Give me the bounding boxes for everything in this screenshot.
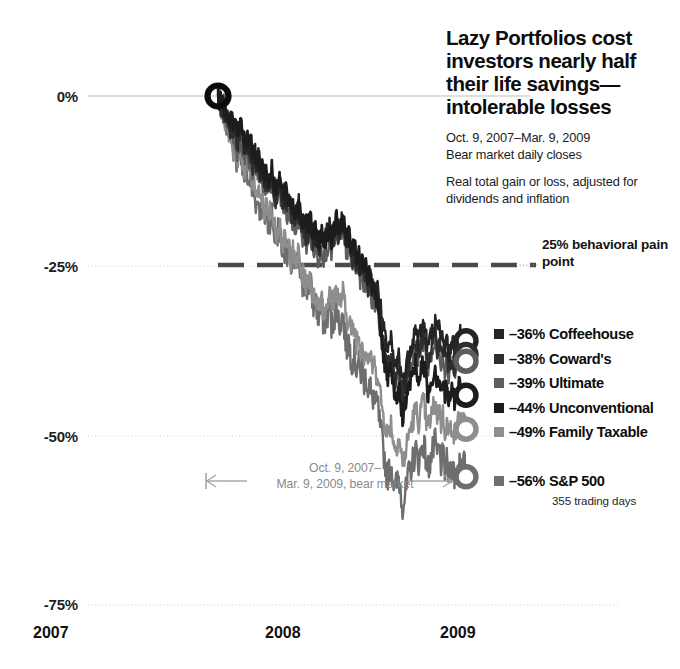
legend-value: –36% <box>509 326 545 342</box>
series-layer <box>218 87 466 519</box>
legend-item-ultimate[interactable]: –39%Ultimate <box>494 371 654 396</box>
x-axis-tick-2008: 2008 <box>265 624 301 642</box>
start-marker <box>208 86 229 107</box>
legend-value: –56% <box>509 473 545 489</box>
legend-swatch-icon <box>494 354 504 364</box>
legend-item-s-p-500[interactable]: –56%S&P 500 <box>494 469 654 494</box>
legend-item-coffeehouse[interactable]: –36%Coffeehouse <box>494 322 654 347</box>
trading-days-footnote: 355 trading days <box>552 494 636 507</box>
legend-item-unconventional[interactable]: –44%Unconventional <box>494 396 654 421</box>
subtitle-method: Real total gain or loss, adjusted for di… <box>446 174 670 207</box>
legend-swatch-icon <box>494 329 504 339</box>
x-axis-tick-2009: 2009 <box>440 624 476 642</box>
legend-swatch-icon <box>494 378 504 388</box>
legend-swatch-icon <box>494 476 504 486</box>
legend-swatch-icon <box>494 403 504 413</box>
chart-container: 0% -25% -50% -75% 2007 2008 2009 Lazy Po… <box>0 0 680 669</box>
y-axis-tick-75: -75% <box>16 596 78 613</box>
y-axis-tick-25: -25% <box>16 258 78 275</box>
legend-label: Coffeehouse <box>549 326 634 342</box>
y-axis-tick-0: 0% <box>16 88 78 105</box>
title-block: Lazy Portfolios cost investors nearly ha… <box>446 26 670 207</box>
y-axis-tick-50: -50% <box>16 428 78 445</box>
legend-value: –39% <box>509 375 545 391</box>
subtitle-period: Oct. 9, 2007–Mar. 9, 2009Bear market dai… <box>446 130 670 163</box>
endpoint-marker-family-taxable <box>456 419 476 439</box>
legend-value: –44% <box>509 400 545 416</box>
legend-swatch-icon <box>494 427 504 437</box>
endpoint-marker-s-p-500 <box>456 467 476 487</box>
legend-label: Family Taxable <box>549 424 648 440</box>
bear-market-annotation: Oct. 9, 2007–Mar. 9, 2009, bear market <box>250 460 440 492</box>
legend-label: Unconventional <box>549 400 654 416</box>
legend-item-coward-s[interactable]: –38%Coward's <box>494 347 654 372</box>
page-title: Lazy Portfolios cost investors nearly ha… <box>446 26 670 118</box>
pain-point-annotation: 25% behavioral pain point <box>542 236 672 270</box>
legend-label: Ultimate <box>549 375 604 391</box>
legend: –36%Coffeehouse–38%Coward's–39%Ultimate–… <box>494 322 654 493</box>
legend-label: S&P 500 <box>549 473 605 489</box>
endpoint-marker-unconventional <box>456 385 476 405</box>
legend-value: –38% <box>509 351 545 367</box>
legend-label: Coward's <box>549 351 611 367</box>
endpoint-marker-ultimate <box>456 351 476 371</box>
series-line-coward-s <box>218 96 466 402</box>
legend-value: –49% <box>509 424 545 440</box>
x-axis-tick-2007: 2007 <box>33 624 69 642</box>
legend-item-family-taxable[interactable]: –49%Family Taxable <box>494 420 654 445</box>
